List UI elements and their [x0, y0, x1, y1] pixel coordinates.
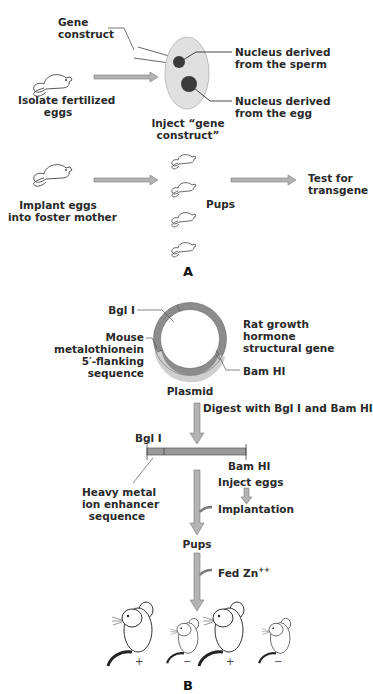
- sign-3: +: [226, 656, 234, 667]
- inject-construct-label: Inject “geneconstruct”: [150, 117, 226, 141]
- test-transgene-label: Test fortransgene: [308, 172, 368, 196]
- bam-hi-plasmid-label: Bam HI: [243, 365, 285, 377]
- rat-growth-hormone-label: Rat growthhormonestructural gene: [243, 318, 334, 354]
- gene-construct-label: Geneconstruct: [58, 16, 114, 40]
- implantation-label: Implantation: [218, 503, 294, 515]
- sign-2: −: [183, 656, 191, 667]
- mouse-metalothionein-label: Mousemetalothionein 5′-flankingsequence: [50, 331, 144, 379]
- panel-b-label: B: [183, 678, 193, 693]
- nucleus-egg-label: Nucleus derivedfrom the egg: [235, 95, 330, 119]
- inject-eggs-label: Inject eggs: [218, 476, 283, 488]
- panel-a-label: A: [183, 264, 193, 279]
- pups-label-a: Pups: [206, 198, 235, 210]
- sign-4: −: [274, 656, 282, 667]
- implant-eggs-label: Implant eggsinto foster mother: [8, 199, 108, 223]
- plasmid-label: Plasmid: [160, 385, 220, 397]
- bgl-i-fragment-label: Bgl I: [135, 432, 162, 444]
- fed-zn-label: Fed Zn++: [218, 564, 270, 579]
- pups-label-b: Pups: [177, 538, 217, 550]
- enhancer-label: Heavy metalion enhancersequence: [82, 486, 152, 522]
- isolate-eggs-label: Isolate fertilizedeggs: [18, 94, 98, 118]
- bgl-i-plasmid-label: Bgl I: [95, 304, 135, 316]
- bam-hi-fragment-label: Bam HI: [228, 460, 270, 472]
- sign-1: +: [135, 656, 143, 667]
- nucleus-sperm-label: Nucleus derivedfrom the sperm: [235, 46, 330, 70]
- digest-label: Digest with Bgl I and Bam HI: [203, 402, 373, 414]
